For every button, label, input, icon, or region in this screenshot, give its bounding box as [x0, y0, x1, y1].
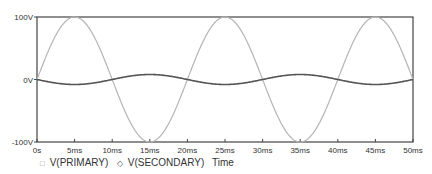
- x-tick-label: 50ms: [403, 146, 423, 155]
- series-secondary-line: [37, 75, 413, 85]
- y-tick-label: 0V: [23, 76, 33, 85]
- series-primary-line: [37, 17, 413, 142]
- svg-text:□ V(PRIMARY): □ V(PRIMARY): [40, 157, 108, 168]
- y-axis: 100V0V-100V: [12, 13, 37, 147]
- x-axis: 0s5ms10ms15ms20ms25ms30ms35ms40ms45ms50m…: [33, 139, 423, 155]
- legend-label-primary: V(PRIMARY): [50, 157, 109, 168]
- x-tick-label: 20ms: [178, 146, 198, 155]
- legend-marker-diamond-icon: ◇: [117, 159, 124, 168]
- x-tick-label: 25ms: [215, 146, 235, 155]
- x-tick-label: 15ms: [140, 146, 160, 155]
- svg-text:◇ V(SECONDARY): ◇ V(SECONDARY): [117, 157, 204, 168]
- x-tick-label: 30ms: [253, 146, 273, 155]
- x-tick-label: 5ms: [67, 146, 82, 155]
- y-tick-label: 100V: [14, 13, 33, 22]
- x-tick-label: 40ms: [328, 146, 348, 155]
- x-axis-label: Time: [212, 157, 234, 168]
- x-tick-label: 10ms: [102, 146, 122, 155]
- legend-label-secondary: V(SECONDARY): [128, 157, 205, 168]
- legend: □ V(PRIMARY) ◇ V(SECONDARY) Time: [40, 157, 234, 168]
- waveform-chart: 100V0V-100V 0s5ms10ms15ms20ms25ms30ms35m…: [0, 0, 432, 174]
- x-tick-label: 45ms: [366, 146, 386, 155]
- legend-marker-square-icon: □: [40, 159, 45, 168]
- x-tick-label: 0s: [33, 146, 41, 155]
- x-tick-label: 35ms: [290, 146, 310, 155]
- y-tick-label: -100V: [12, 138, 34, 147]
